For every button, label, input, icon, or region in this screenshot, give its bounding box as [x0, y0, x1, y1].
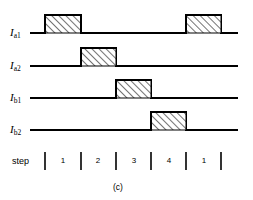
pulse-ib1-step3 [117, 81, 152, 99]
signal-row-ib2 [30, 112, 238, 130]
signal-label-ib2-sub: b2 [14, 128, 22, 137]
step-axis-label: step [12, 157, 29, 166]
signal-label-ib1-sub: b1 [14, 96, 22, 105]
waveform-ib2 [30, 112, 238, 130]
step-number-3: 3 [124, 157, 144, 165]
signal-row-ib1 [30, 80, 238, 98]
timing-diagram-figure: Ia1 Ia2 Ib1 Ib2 step 1 2 3 4 1 (c) [0, 0, 253, 200]
signal-label-ia1: Ia1 [10, 27, 21, 38]
signal-label-ia2: Ia2 [10, 60, 21, 71]
signal-label-ib2: Ib2 [10, 124, 21, 135]
figure-caption: (c) [98, 183, 138, 192]
step-number-2: 2 [88, 157, 108, 165]
step-number-1: 1 [53, 157, 73, 165]
timing-diagram-canvas [0, 0, 253, 200]
pulse-ia2-step2 [82, 49, 117, 67]
signal-row-ia2 [30, 48, 238, 66]
pulse-ia1-step1-repeat [187, 16, 222, 34]
pulse-ia1-step1 [46, 16, 81, 34]
signal-label-ia1-sub: a1 [14, 31, 21, 40]
waveform-ia2 [30, 48, 238, 66]
pulse-ib2-step4 [152, 113, 187, 131]
signal-label-ib1: Ib1 [10, 92, 21, 103]
step-number-4: 4 [159, 157, 179, 165]
signal-label-ia2-sub: a2 [14, 64, 21, 73]
signal-row-ia1 [30, 15, 238, 33]
step-number-5: 1 [194, 157, 214, 165]
